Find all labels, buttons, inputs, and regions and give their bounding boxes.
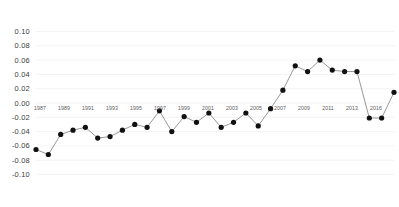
data-point-marker bbox=[46, 152, 51, 157]
x-axis-tick-label: 2011 bbox=[317, 105, 339, 111]
data-point-marker bbox=[120, 128, 125, 133]
data-point-marker bbox=[219, 125, 224, 130]
data-point-marker bbox=[145, 125, 150, 130]
data-point-marker bbox=[169, 129, 174, 134]
y-axis-tick-label: 0.04 bbox=[2, 70, 30, 79]
data-point-marker bbox=[107, 134, 112, 139]
x-axis-tick-label: 1991 bbox=[77, 105, 99, 111]
data-point-marker bbox=[182, 114, 187, 119]
data-point-marker bbox=[243, 110, 248, 115]
x-axis-tick-label: 1993 bbox=[101, 105, 123, 111]
data-point-marker bbox=[305, 69, 310, 74]
data-point-marker bbox=[354, 69, 359, 74]
x-axis-tick-label: 2013 bbox=[341, 105, 363, 111]
data-point-marker bbox=[330, 68, 335, 73]
data-point-marker bbox=[132, 122, 137, 127]
x-axis-tick-label: 2016 bbox=[365, 105, 387, 111]
y-axis-tick-label: 0.08 bbox=[2, 41, 30, 50]
data-point-marker bbox=[293, 63, 298, 68]
data-point-marker bbox=[342, 69, 347, 74]
y-axis-tick-label: -0.02 bbox=[2, 113, 30, 122]
data-point-marker bbox=[317, 58, 322, 63]
y-axis-tick-label: 0.06 bbox=[2, 56, 30, 65]
data-point-marker bbox=[206, 110, 211, 115]
x-axis-tick-label: 1995 bbox=[125, 105, 147, 111]
data-point-marker bbox=[83, 125, 88, 130]
x-axis-tick-label: 2009 bbox=[293, 105, 315, 111]
y-axis-tick-label: 0.10 bbox=[2, 27, 30, 36]
data-point-marker bbox=[58, 132, 63, 137]
data-point-marker bbox=[379, 115, 384, 120]
y-axis-tick-label: -0.06 bbox=[2, 141, 30, 150]
x-axis-tick-label: 1989 bbox=[53, 105, 75, 111]
y-axis-tick-label: 0.02 bbox=[2, 84, 30, 93]
x-axis-tick-label: 2003 bbox=[221, 105, 243, 111]
x-axis-tick-label: 2007 bbox=[269, 105, 291, 111]
y-axis-tick-label: -0.04 bbox=[2, 127, 30, 136]
data-point-marker bbox=[95, 135, 100, 140]
data-point-marker bbox=[33, 147, 38, 152]
x-axis-tick-label: 1997 bbox=[149, 105, 171, 111]
data-point-marker bbox=[194, 120, 199, 125]
y-axis-tick-label: 0.00 bbox=[2, 99, 30, 108]
data-point-marker bbox=[70, 128, 75, 133]
data-point-marker bbox=[280, 88, 285, 93]
y-axis-tick-label: -0.08 bbox=[2, 156, 30, 165]
x-axis-tick-label: 1999 bbox=[173, 105, 195, 111]
data-point-marker bbox=[231, 120, 236, 125]
line-chart: 0.100.080.060.040.020.00-0.02-0.04-0.06-… bbox=[0, 0, 399, 207]
data-point-marker bbox=[256, 123, 261, 128]
x-axis-tick-label: 1987 bbox=[29, 105, 51, 111]
x-axis-tick-label: 2001 bbox=[197, 105, 219, 111]
chart-plot-area bbox=[0, 0, 399, 207]
data-point-marker bbox=[391, 90, 396, 95]
x-axis-tick-label: 2005 bbox=[245, 105, 267, 111]
y-axis-tick-label: -0.10 bbox=[2, 170, 30, 179]
data-point-marker bbox=[367, 115, 372, 120]
